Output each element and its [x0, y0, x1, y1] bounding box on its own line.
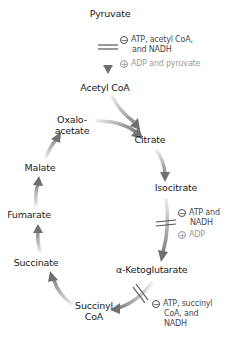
- node-alpha-ketoglutarate: α-Ketoglutarate: [116, 264, 186, 275]
- arrow-isocitrate-to-akg: [156, 198, 176, 262]
- node-malate: Malate: [22, 162, 58, 173]
- node-acetyl-coa: Acetyl CoA: [78, 82, 132, 93]
- arrow-citrate-to-isocitrate: [156, 150, 170, 182]
- node-oxaloacetate: Oxalo- acetate: [52, 114, 92, 136]
- inhibitor-label-cont: CoA, and: [152, 309, 212, 319]
- inhibitor-label-cont: NADH: [178, 218, 220, 228]
- inhibitor-label: −ATP, succinyl: [152, 299, 212, 309]
- regulators-akgdh: −ATP, succinyl CoA, and NADH: [152, 299, 212, 329]
- minus-circle-icon: −: [178, 209, 186, 217]
- node-pyruvate: Pyruvate: [86, 8, 134, 19]
- regulators-idh: −ATP and NADH +ADP: [178, 208, 220, 240]
- activator-label: +ADP: [178, 230, 220, 240]
- node-citrate: Citrate: [130, 134, 170, 145]
- activator-label: +ADP and pyruvate: [120, 59, 200, 69]
- minus-circle-icon: −: [152, 300, 160, 308]
- node-succinyl-coa-line2: CoA: [74, 311, 114, 322]
- node-fumarate: Fumarate: [4, 209, 54, 220]
- inhibitor-label-cont: and NADH: [120, 45, 200, 55]
- inhibitor-label-cont2: NADH: [152, 319, 212, 329]
- node-succinate: Succinate: [10, 257, 62, 268]
- arrow-succinylcoa-to-succinate: [48, 271, 72, 304]
- inhibitor-label: −ATP and: [178, 208, 220, 218]
- node-isocitrate: Isocitrate: [148, 182, 204, 193]
- arrow-succinate-to-fumarate: [33, 224, 43, 252]
- node-oxaloacetate-line2: acetate: [52, 125, 92, 136]
- plus-circle-icon: +: [120, 60, 128, 68]
- arrow-fumarate-to-malate: [33, 176, 43, 206]
- arrow-akg-to-succinylcoa: [110, 282, 152, 314]
- inhibitor-label: −ATP, acetyl CoA,: [120, 35, 200, 45]
- node-succinyl-coa: Succinyl CoA: [74, 300, 114, 322]
- regulators-pdh: −ATP, acetyl CoA, and NADH +ADP and pyru…: [120, 35, 200, 69]
- arrow-pyruvate-to-acetylcoa: [98, 27, 118, 74]
- minus-circle-icon: −: [120, 36, 128, 44]
- node-oxaloacetate-line1: Oxalo-: [52, 114, 92, 125]
- node-succinyl-coa-line1: Succinyl: [74, 300, 114, 311]
- plus-circle-icon: +: [178, 231, 186, 239]
